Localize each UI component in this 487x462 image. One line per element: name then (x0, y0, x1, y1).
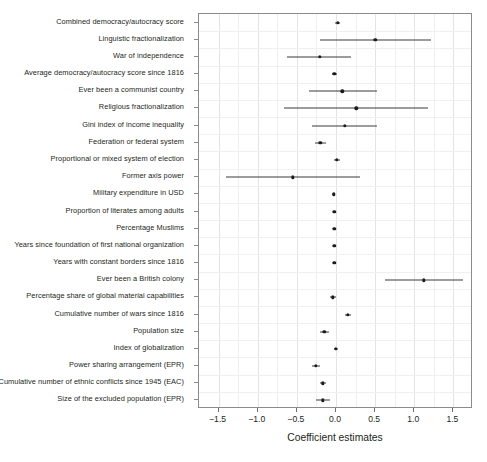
y-axis-tick-label: Former axis power (122, 172, 184, 180)
y-axis-tick-label: Religious fractionalization (99, 103, 184, 111)
y-axis-tick-label: Ever been a communist country (79, 86, 184, 94)
coefficient-point-estimate (321, 382, 324, 385)
x-axis-tick-label: 1.0 (407, 414, 419, 424)
coefficient-point-estimate (422, 278, 425, 281)
y-axis-tick-label: Cumulative number of wars since 1816 (54, 310, 184, 318)
coefficient-point-estimate (334, 347, 337, 350)
horizontal-gridline (199, 254, 471, 255)
horizontal-gridline (199, 66, 471, 67)
x-axis-tick-mark (257, 408, 258, 412)
horizontal-gridline (199, 117, 471, 118)
vertical-gridline-major (453, 14, 454, 407)
plot-area (198, 13, 472, 408)
vertical-gridline-major (414, 14, 415, 407)
horizontal-gridline (199, 289, 471, 290)
horizontal-gridline (199, 220, 471, 221)
y-axis-tick-mark (194, 279, 198, 280)
y-axis-tick-label: Proportion of literates among adults (66, 207, 184, 215)
horizontal-gridline (199, 186, 471, 187)
y-axis-tick-mark (194, 107, 198, 108)
y-axis-tick-mark (194, 73, 198, 74)
x-axis-tick-label: 1.5 (446, 414, 458, 424)
y-axis-tick-mark (194, 193, 198, 194)
horizontal-gridline (199, 340, 471, 341)
y-axis-tick-label: Years with constant borders since 1816 (53, 258, 184, 266)
horizontal-gridline (199, 169, 471, 170)
x-axis-tick-label: 0.5 (368, 414, 380, 424)
y-axis-tick-mark (194, 382, 198, 383)
y-axis-tick-label: Proportional or mixed system of election (51, 155, 184, 163)
horizontal-gridline (199, 83, 471, 84)
y-axis-tick-label: Years since foundation of first national… (14, 241, 184, 249)
y-axis-tick-mark (194, 159, 198, 160)
coefficient-point-estimate (319, 141, 322, 144)
vertical-gridline-minor (434, 14, 435, 407)
y-axis-tick-mark (194, 211, 198, 212)
coefficient-point-estimate (336, 21, 339, 24)
y-axis-tick-mark (194, 22, 198, 23)
coefficient-point-estimate (355, 107, 358, 110)
x-axis-tick-label: −1.0 (248, 414, 265, 424)
vertical-gridline-minor (395, 14, 396, 407)
y-axis-tick-label: Linguistic fractionalization (98, 35, 184, 43)
y-axis-tick-label: Percentage Muslims (116, 224, 184, 232)
y-axis-tick-mark (194, 90, 198, 91)
coefficient-point-estimate (332, 193, 335, 196)
y-axis-tick-label: Index of globalization (113, 344, 184, 352)
plot-inner (199, 14, 471, 407)
y-axis-tick-mark (194, 228, 198, 229)
y-axis-tick-label: Gini index of income inequality (82, 121, 184, 129)
y-axis-tick-mark (194, 142, 198, 143)
coefficient-plot-figure: Combined democracy/autocracy scoreLingui… (0, 0, 487, 462)
y-axis-tick-label: War of independence (113, 52, 184, 60)
coefficient-point-estimate (343, 124, 346, 127)
horizontal-gridline (199, 272, 471, 273)
vertical-gridline-minor (238, 14, 239, 407)
y-axis-tick-label: Power sharing arrangement (EPR) (69, 361, 184, 369)
vertical-gridline-major (219, 14, 220, 407)
y-axis-tick-label: Ever been a British colony (97, 275, 184, 283)
vertical-gridline-minor (316, 14, 317, 407)
x-axis-tick-mark (413, 408, 414, 412)
vertical-gridline-major (375, 14, 376, 407)
x-axis-tick-mark (374, 408, 375, 412)
y-axis-tick-mark (194, 262, 198, 263)
y-axis-tick-label: Military expenditure in USD (93, 189, 184, 197)
vertical-gridline-major (297, 14, 298, 407)
coefficient-point-estimate (373, 38, 376, 41)
x-axis-tick-mark (335, 408, 336, 412)
x-axis-tick-label: −0.5 (287, 414, 304, 424)
y-axis-tick-mark (194, 296, 198, 297)
x-axis-tick-label: 0.0 (329, 414, 341, 424)
horizontal-gridline (199, 392, 471, 393)
horizontal-gridline (199, 323, 471, 324)
coefficient-point-estimate (323, 330, 326, 333)
y-axis-tick-label: Combined democracy/autocracy score (56, 18, 184, 26)
y-axis-tick-mark (194, 331, 198, 332)
y-axis-tick-label: Federation or federal system (89, 138, 184, 146)
y-axis-tick-label: Average democracy/autocracy score since … (24, 69, 184, 77)
y-axis-tick-label: Size of the excluded population (EPR) (57, 395, 184, 403)
x-axis-tick-mark (218, 408, 219, 412)
y-axis-tick-mark (194, 39, 198, 40)
y-axis-tick-mark (194, 348, 198, 349)
y-axis-tick-mark (194, 314, 198, 315)
vertical-gridline-minor (356, 14, 357, 407)
y-axis-tick-label: Cumulative number of ethnic conflicts si… (0, 378, 184, 386)
coefficient-point-estimate (321, 399, 324, 402)
y-axis-tick-mark (194, 245, 198, 246)
y-axis-tick-mark (194, 399, 198, 400)
y-axis-tick-label: Percentage share of global material capa… (26, 292, 184, 300)
horizontal-gridline (199, 134, 471, 135)
horizontal-gridline (199, 151, 471, 152)
x-axis-title: Coefficient estimates (198, 432, 472, 443)
x-axis-tick-mark (452, 408, 453, 412)
y-axis-tick-mark (194, 365, 198, 366)
vertical-gridline-minor (277, 14, 278, 407)
horizontal-gridline (199, 31, 471, 32)
horizontal-gridline (199, 100, 471, 101)
coefficient-point-estimate (341, 90, 344, 93)
x-axis-tick-label: −1.5 (209, 414, 226, 424)
horizontal-gridline (199, 306, 471, 307)
y-axis-label-column: Combined democracy/autocracy scoreLingui… (0, 13, 192, 408)
